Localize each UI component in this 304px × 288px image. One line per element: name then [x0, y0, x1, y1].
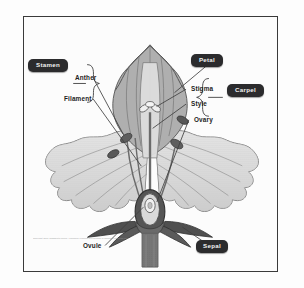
label-ovary: Ovary	[194, 116, 213, 124]
flower-cross-section-artwork	[24, 17, 277, 271]
badge-carpel[interactable]: Carpel	[227, 84, 264, 97]
screenshot-canvas: Stamen Petal Carpel Sepal Anther Filamen…	[0, 0, 304, 288]
badge-petal[interactable]: Petal	[191, 54, 223, 67]
copyright-credit: Copyright 2001 Wadsworth Group / Thomson…	[33, 237, 223, 241]
flower-illustration	[24, 17, 277, 271]
ovule-nucleus	[148, 202, 152, 208]
badge-sepal[interactable]: Sepal	[196, 240, 228, 253]
label-filament: Filament	[64, 95, 91, 103]
label-stigma: Stigma	[191, 85, 213, 93]
label-anther: Anther	[75, 74, 97, 82]
badge-stamen[interactable]: Stamen	[28, 59, 68, 72]
label-ovule: Ovule	[83, 242, 102, 250]
label-style: Style	[191, 100, 207, 108]
figure-frame: Stamen Petal Carpel Sepal Anther Filamen…	[23, 16, 278, 272]
